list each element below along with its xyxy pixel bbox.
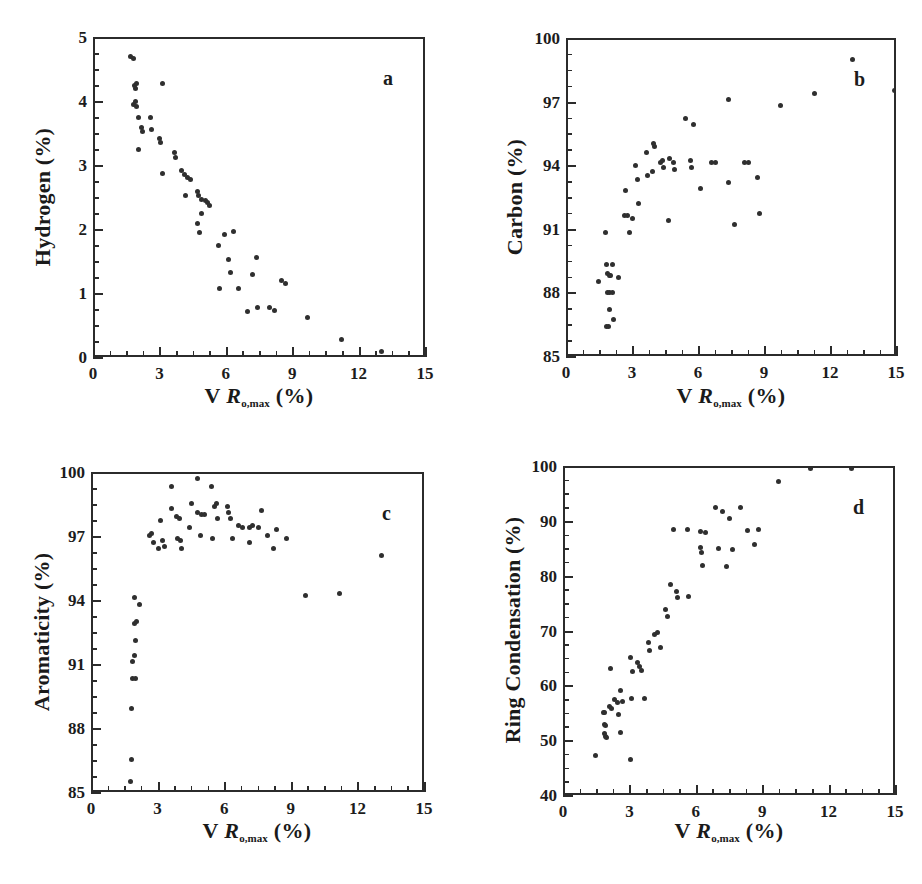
data-point <box>699 550 704 555</box>
data-point <box>720 509 725 514</box>
data-point <box>716 546 721 551</box>
panel-letter-d: d <box>853 496 864 519</box>
y-minor-tick <box>563 589 569 591</box>
data-point <box>665 614 670 619</box>
x-tick-label: 15 <box>887 803 904 820</box>
data-point <box>700 563 705 568</box>
y-minor-tick <box>563 699 569 701</box>
data-point <box>618 730 623 735</box>
data-point <box>756 527 761 532</box>
x-axis-title-d: V Ro,max (%) <box>674 818 783 844</box>
data-point <box>849 468 854 471</box>
figure-four-scatter-panels: 03691215012345V Ro,max (%)Hydrogen (%)a0… <box>0 0 922 884</box>
y-major-tick <box>563 740 573 742</box>
x-axis-title-prefix: V <box>674 818 696 843</box>
x-minor-tick <box>746 789 748 795</box>
y-minor-tick <box>563 493 569 495</box>
data-point <box>738 505 743 510</box>
x-major-tick <box>895 785 897 795</box>
x-axis-title-suffix: (%) <box>740 818 784 843</box>
y-minor-tick <box>563 672 569 674</box>
x-tick-label: 12 <box>820 803 837 820</box>
y-minor-tick <box>563 535 569 537</box>
data-point <box>752 542 757 547</box>
data-point <box>618 688 623 693</box>
y-major-tick <box>563 685 573 687</box>
data-point <box>658 645 663 650</box>
data-point <box>646 640 651 645</box>
data-point <box>629 696 634 701</box>
y-tick-label: 40 <box>515 787 557 804</box>
data-point <box>603 723 608 728</box>
x-minor-tick <box>862 789 864 795</box>
x-minor-tick <box>580 789 582 795</box>
x-major-tick <box>629 785 631 795</box>
x-minor-tick <box>812 789 814 795</box>
x-minor-tick <box>613 789 615 795</box>
plot-frame-d <box>563 466 895 795</box>
y-major-tick <box>563 631 573 633</box>
x-minor-tick <box>663 789 665 795</box>
data-point <box>730 547 735 552</box>
x-major-tick <box>762 785 764 795</box>
y-major-tick <box>563 521 573 523</box>
panel-d: 03691215405060708090100V Ro,max (%)Ring … <box>0 0 922 884</box>
data-point <box>808 468 813 471</box>
data-point <box>668 582 673 587</box>
data-point <box>776 479 781 484</box>
data-point <box>674 589 679 594</box>
x-minor-tick <box>779 789 781 795</box>
y-minor-tick <box>563 726 569 728</box>
data-point <box>628 757 633 762</box>
data-point <box>724 564 729 569</box>
data-point <box>609 706 614 711</box>
data-point <box>630 669 635 674</box>
y-major-tick <box>563 795 573 797</box>
x-minor-tick <box>795 789 797 795</box>
data-point <box>703 530 708 535</box>
data-point <box>713 505 718 510</box>
data-point <box>639 668 644 673</box>
data-point <box>745 528 750 533</box>
y-minor-tick <box>563 658 569 660</box>
data-point <box>642 696 647 701</box>
x-minor-tick <box>596 789 598 795</box>
x-axis-title-symbol: R <box>696 818 711 843</box>
figure-caption-partial <box>0 870 922 884</box>
data-point <box>616 712 621 717</box>
x-minor-tick <box>729 789 731 795</box>
y-minor-tick <box>563 644 569 646</box>
y-minor-tick <box>563 617 569 619</box>
plot-area-d <box>565 468 893 793</box>
data-point <box>686 594 691 599</box>
y-minor-tick <box>563 562 569 564</box>
x-minor-tick <box>878 789 880 795</box>
y-minor-tick <box>563 548 569 550</box>
data-point <box>655 630 660 635</box>
data-point <box>608 666 613 671</box>
y-minor-tick <box>563 754 569 756</box>
y-minor-tick <box>563 768 569 770</box>
x-minor-tick <box>845 789 847 795</box>
x-major-tick <box>696 785 698 795</box>
x-axis-title-subscript: o,max <box>711 832 739 844</box>
data-point <box>675 595 680 600</box>
data-point <box>604 735 609 740</box>
y-minor-tick <box>563 480 569 482</box>
y-minor-tick <box>563 713 569 715</box>
data-point <box>671 527 676 532</box>
data-point <box>593 753 598 758</box>
data-point <box>727 516 732 521</box>
data-point <box>663 607 668 612</box>
x-tick-label: 0 <box>559 803 568 820</box>
y-major-tick <box>563 576 573 578</box>
x-minor-tick <box>646 789 648 795</box>
y-axis-title-d: Ring Condensation (%) <box>500 517 526 744</box>
data-point <box>698 545 703 550</box>
x-minor-tick <box>679 789 681 795</box>
x-minor-tick <box>712 789 714 795</box>
y-minor-tick <box>563 603 569 605</box>
data-point <box>620 699 625 704</box>
data-point <box>698 529 703 534</box>
x-tick-label: 3 <box>625 803 634 820</box>
